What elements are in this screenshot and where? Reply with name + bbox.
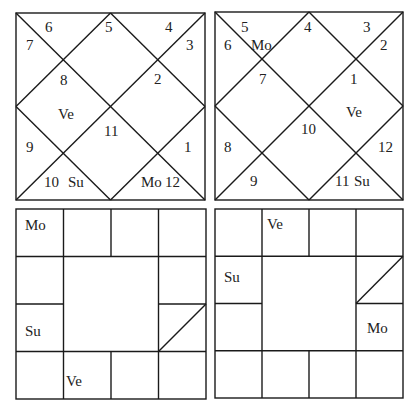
chart-label: Ve xyxy=(66,373,82,389)
chart-label: 2 xyxy=(154,71,162,87)
chart-label: Mo xyxy=(367,320,388,336)
navamsa-chart-north: 56Mo43271Ve10812911Su xyxy=(215,12,403,200)
chart-label: 10 xyxy=(44,174,59,190)
chart-label: 9 xyxy=(26,139,34,155)
chart-label: 7 xyxy=(259,71,267,87)
ascendant-slash xyxy=(159,304,207,352)
chart-label: 9 xyxy=(250,173,258,189)
chart-label: 11 xyxy=(104,123,118,139)
chart-label: Su xyxy=(224,269,240,285)
chart-label: 7 xyxy=(26,37,34,53)
chart-label: Su xyxy=(68,174,84,190)
chart-label: 4 xyxy=(165,19,173,35)
horoscope-charts: 6754382Ve119110SuMo1256Mo43271Ve10812911… xyxy=(0,0,414,411)
rasi-chart-south: MoSuVe xyxy=(16,209,206,399)
chart-label: 6 xyxy=(224,37,232,53)
chart-label: 2 xyxy=(380,37,388,53)
chart-label: 1 xyxy=(350,71,358,87)
chart-label: 12 xyxy=(165,174,180,190)
chart-label: 6 xyxy=(45,19,53,35)
chart-label: 10 xyxy=(301,121,316,137)
rasi-chart-north: 6754382Ve119110SuMo12 xyxy=(16,13,205,200)
chart-label: 3 xyxy=(186,37,194,53)
ascendant-slash xyxy=(356,256,403,303)
chart-label: Mo xyxy=(25,217,46,233)
chart-label: Mo xyxy=(141,174,162,190)
chart-label: 8 xyxy=(224,139,232,155)
chart-label: 3 xyxy=(363,19,371,35)
navamsa-chart-south: VeSuMo xyxy=(215,209,403,398)
chart-label: Ve xyxy=(346,104,362,120)
chart-label: 5 xyxy=(241,19,249,35)
chart-label: Mo xyxy=(251,37,272,53)
chart-label: 5 xyxy=(105,19,113,35)
chart-label: Ve xyxy=(58,106,74,122)
chart-label: Su xyxy=(354,173,370,189)
chart-label: 4 xyxy=(304,19,312,35)
chart-label: 12 xyxy=(378,139,393,155)
chart-label: 1 xyxy=(184,139,192,155)
chart-label: Ve xyxy=(267,216,283,232)
chart-label: 8 xyxy=(60,72,68,88)
chart-label: Su xyxy=(25,323,41,339)
chart-label: 11 xyxy=(335,173,349,189)
